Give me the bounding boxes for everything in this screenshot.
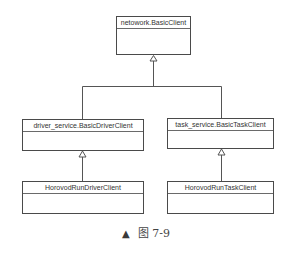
caption-text: 图 7-9 (138, 227, 170, 240)
class-name: driver_service.BasicDriverClient (23, 120, 143, 132)
figure-caption: ▲图 7-9 (0, 224, 292, 240)
class-box-task-service: task_service.BasicTaskClient (167, 118, 274, 149)
class-box-horovod-run-driver: HorovodRunDriverClient (22, 181, 144, 214)
class-name: HorovodRunTaskClient (168, 182, 273, 194)
class-name: HorovodRunDriverClient (23, 182, 143, 194)
class-box-horovod-run-task: HorovodRunTaskClient (167, 181, 274, 214)
class-box-root: netowork.BasicClient (116, 16, 191, 55)
class-box-driver-service: driver_service.BasicDriverClient (22, 119, 144, 151)
class-name: task_service.BasicTaskClient (168, 119, 273, 131)
triangle-marker-icon: ▲ (122, 228, 130, 239)
class-name: netowork.BasicClient (117, 17, 190, 29)
